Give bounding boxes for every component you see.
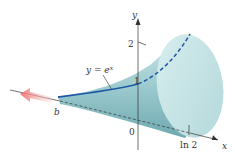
y-tick-label-1: 1 bbox=[134, 76, 140, 86]
x-tick-label-ln2: ln 2 bbox=[180, 140, 197, 150]
x-axis-label: x bbox=[222, 141, 227, 151]
lower-limit-label: b bbox=[54, 107, 60, 117]
y-tick-label-2: 2 bbox=[128, 39, 134, 49]
y-tick-2 bbox=[138, 42, 146, 45]
origin-label: 0 bbox=[129, 127, 135, 137]
y-axis-label: y bbox=[131, 10, 138, 20]
curve-label: y = ex bbox=[85, 64, 114, 75]
x-axis-arrow-icon bbox=[212, 135, 219, 141]
solid-of-revolution-figure: y = ex y x 2 1 0 ln 2 b bbox=[0, 0, 235, 161]
figure-canvas: y = ex y x 2 1 0 ln 2 b bbox=[0, 0, 235, 161]
limit-arrow-icon bbox=[20, 88, 52, 103]
